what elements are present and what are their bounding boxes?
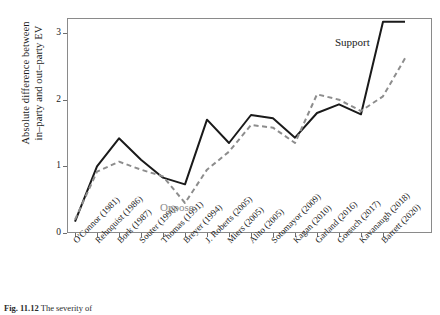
caption-text: The severity of bbox=[41, 303, 92, 313]
series-line-support bbox=[75, 22, 405, 222]
caption-label: Fig. 11.12 bbox=[4, 303, 39, 313]
y-axis-title: Absolute difference between in–party and… bbox=[19, 0, 45, 193]
figure-caption: Fig. 11.12 The severity of bbox=[4, 303, 92, 313]
y-tick-label: 2 bbox=[49, 94, 61, 104]
figure-container: Absolute difference between in–party and… bbox=[0, 0, 440, 315]
series-label-support: Support bbox=[335, 36, 370, 48]
series-line-oppose bbox=[75, 58, 405, 219]
y-tick-mark bbox=[63, 233, 67, 234]
y-tick-label: 1 bbox=[49, 160, 61, 170]
series-label-oppose: Oppose bbox=[160, 201, 194, 213]
y-tick-label: 3 bbox=[49, 27, 61, 37]
y-tick-label: 0 bbox=[49, 227, 61, 237]
